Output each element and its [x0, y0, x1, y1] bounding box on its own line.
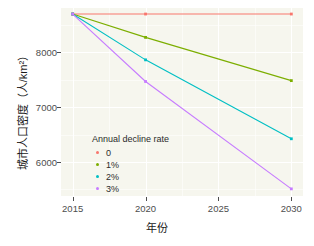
legend-dot-icon	[96, 151, 99, 154]
series-layer	[0, 0, 314, 246]
y-tick-mark	[57, 162, 61, 163]
x-tick-label: 2025	[208, 203, 229, 214]
series-line	[73, 14, 292, 139]
data-point	[144, 13, 147, 16]
x-tick-mark	[146, 197, 147, 201]
data-point	[144, 58, 147, 61]
legend-key-icon	[92, 183, 103, 194]
data-point	[144, 36, 147, 39]
y-tick-label: 6000	[36, 157, 57, 168]
x-tick-mark	[291, 197, 292, 201]
legend-key-icon	[92, 159, 103, 170]
y-axis-label: 城市人口密度（人/km²）	[14, 30, 30, 190]
legend-item[interactable]: 3%	[92, 183, 169, 194]
y-tick-mark	[57, 52, 61, 53]
legend-item-label: 0	[106, 148, 111, 158]
legend-item[interactable]: 2%	[92, 171, 169, 182]
legend-item-label: 1%	[106, 160, 119, 170]
data-point	[144, 80, 147, 83]
data-point	[290, 13, 293, 16]
x-axis-label: 年份	[0, 219, 314, 235]
legend-key-icon	[92, 147, 103, 158]
legend-item-label: 3%	[106, 184, 119, 194]
data-point	[290, 79, 293, 82]
x-tick-mark	[218, 197, 219, 201]
legend-item[interactable]: 1%	[92, 159, 169, 170]
line-chart: 800070006000 2015202020252030 年份 城市人口密度（…	[0, 0, 314, 246]
legend-items: 01%2%3%	[92, 147, 169, 194]
legend-key-icon	[92, 171, 103, 182]
legend-dot-icon	[96, 163, 99, 166]
legend-item[interactable]: 0	[92, 147, 169, 158]
legend-dot-icon	[96, 175, 99, 178]
x-tick-label: 2015	[62, 203, 83, 214]
legend-item-label: 2%	[106, 172, 119, 182]
data-point	[71, 13, 74, 16]
y-tick-mark	[57, 107, 61, 108]
legend: Annual decline rate 01%2%3%	[92, 134, 169, 195]
legend-title: Annual decline rate	[92, 134, 169, 144]
x-tick-label: 2020	[135, 203, 156, 214]
data-point	[290, 187, 293, 190]
x-tick-label: 2030	[281, 203, 302, 214]
y-tick-label: 8000	[36, 47, 57, 58]
legend-dot-icon	[96, 187, 99, 190]
y-tick-label: 7000	[36, 102, 57, 113]
series-line	[73, 14, 292, 81]
data-point	[290, 137, 293, 140]
x-tick-mark	[73, 197, 74, 201]
